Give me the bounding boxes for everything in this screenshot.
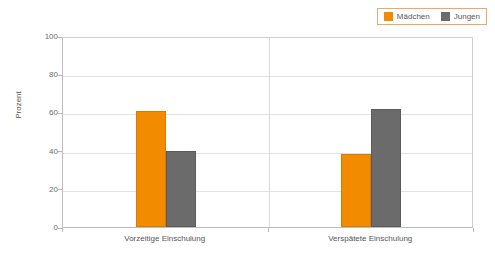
y-tick-label: 100 (32, 33, 58, 41)
x-category-label: Verspätete Einschulung (328, 234, 412, 244)
bar-maedchen (341, 154, 371, 227)
y-tick-label: 60 (32, 109, 58, 117)
x-tick-mark (62, 228, 63, 232)
y-tick-label: 40 (32, 148, 58, 156)
legend-label-jungen: Jungen (454, 12, 480, 21)
x-tick-mark (473, 228, 474, 232)
plot-area (62, 37, 473, 228)
y-tick-label: 0 (32, 224, 58, 232)
x-category-label: Vorzeitige Einschulung (124, 234, 205, 244)
legend-label-maedchen: Mädchen (397, 12, 430, 21)
y-tick-label: 20 (32, 186, 58, 194)
legend-item-maedchen: Mädchen (384, 12, 430, 21)
y-axis-title: Prozent (14, 91, 23, 119)
gridline (63, 153, 472, 154)
legend-swatch-jungen-icon (441, 12, 450, 21)
x-tick-mark (268, 228, 269, 232)
gridline (63, 191, 472, 192)
gridline (63, 76, 472, 77)
category-separator (269, 38, 270, 227)
bar-jungen (166, 151, 196, 227)
chart-legend: Mädchen Jungen (377, 8, 487, 25)
y-tick-label: 80 (32, 71, 58, 79)
bar-chart: Mädchen Jungen Prozent 020406080100 Vorz… (0, 0, 495, 255)
legend-swatch-maedchen-icon (384, 12, 393, 21)
gridline (63, 114, 472, 115)
legend-item-jungen: Jungen (441, 12, 480, 21)
bar-jungen (371, 109, 401, 227)
bar-maedchen (136, 111, 166, 228)
